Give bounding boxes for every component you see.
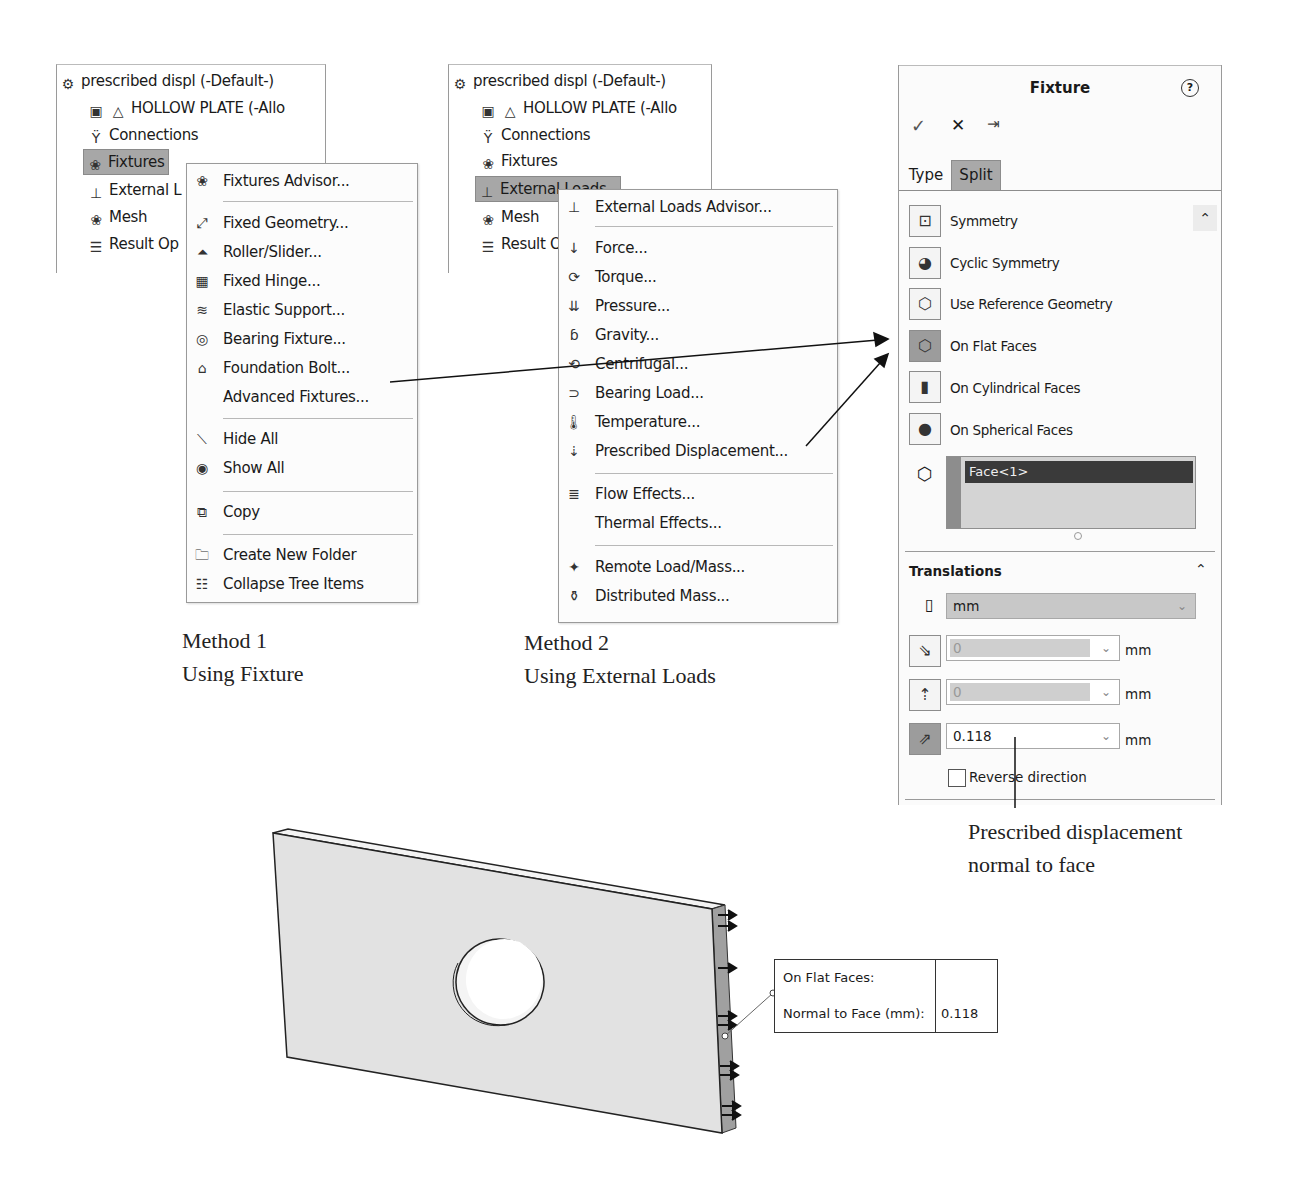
fixture-callout[interactable]: On Flat Faces: Normal to Face (mm): 0.11… (774, 959, 998, 1033)
callout-value-normal: 0.118 (941, 1006, 978, 1021)
callout-label-normal: Normal to Face (mm): (783, 1006, 925, 1021)
callout-label-type: On Flat Faces: (783, 970, 874, 985)
hollow-plate-model (0, 0, 1297, 1186)
